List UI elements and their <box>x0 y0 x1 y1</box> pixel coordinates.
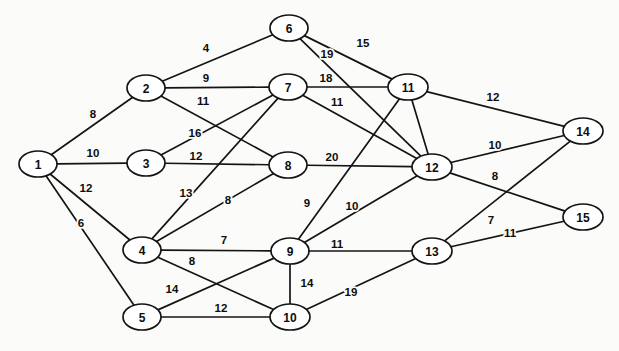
edge-weight-halo-2-8: 11 <box>197 95 210 107</box>
edge-weight-label-4-7: 13 <box>180 187 193 199</box>
graph-node-6[interactable]: 6 <box>270 15 308 41</box>
edge-weight-label-9-10: 14 <box>301 277 314 289</box>
edge-weight-halo-11-14: 12 <box>487 91 500 103</box>
graph-node-15[interactable]: 15 <box>563 204 603 230</box>
edge-weight-halo-9-11: 9 <box>304 197 310 209</box>
edge-weight-halo-1-3: 10 <box>87 147 100 159</box>
node-shape-4[interactable] <box>123 237 161 263</box>
graph-edge-1-5 <box>46 176 134 305</box>
edge-weight-label-1-2: 8 <box>90 108 97 120</box>
graph-node-1[interactable]: 1 <box>19 151 57 177</box>
edge-weight-halo-13-14: 7 <box>488 214 494 226</box>
edge-weight-halo-6-11: 15 <box>357 37 370 49</box>
graph-edge-9-12 <box>304 176 417 243</box>
edge-weight-label-7-11: 18 <box>320 72 333 84</box>
graph-edge-6-11 <box>304 36 392 79</box>
edge-weight-halo-1-2: 8 <box>90 108 97 120</box>
edge-weight-label-3-8: 12 <box>190 150 203 162</box>
edge-weight-label-9-13: 11 <box>331 238 344 250</box>
edge-weight-label-5-10: 12 <box>215 302 228 314</box>
edge-weight-label-2-8: 11 <box>197 95 210 107</box>
graph-edge-2-6 <box>162 35 273 81</box>
graph-edge-8-12 <box>307 165 412 166</box>
edge-weight-halo-12-15: 8 <box>492 170 499 182</box>
graph-edge-4-9 <box>161 250 271 251</box>
node-shape-14[interactable] <box>563 118 603 144</box>
graph-node-13[interactable]: 13 <box>412 238 452 264</box>
node-shape-2[interactable] <box>127 75 165 101</box>
edge-weight-label-7-12: 11 <box>331 96 344 108</box>
graph-node-3[interactable]: 3 <box>127 150 165 176</box>
node-shape-3[interactable] <box>127 150 165 176</box>
edge-weight-halo-4-7: 13 <box>180 187 193 199</box>
graph-svg-root: 123456789101112131415 881010121266449911… <box>0 0 619 351</box>
graph-edge-4-8 <box>156 173 273 241</box>
edge-weight-halo-1-4: 12 <box>80 182 93 194</box>
edge-weight-label-4-10: 8 <box>189 255 196 267</box>
node-shape-12[interactable] <box>412 154 452 180</box>
graph-node-12[interactable]: 12 <box>412 154 452 180</box>
node-shape-5[interactable] <box>123 304 161 330</box>
edge-weight-label-9-12: 10 <box>346 200 359 212</box>
edge-weight-halo-4-10: 8 <box>189 255 196 267</box>
graph-node-14[interactable]: 14 <box>563 118 603 144</box>
graph-edge-10-13 <box>306 259 415 310</box>
graph-edge-2-8 <box>161 96 273 157</box>
node-shape-6[interactable] <box>270 15 308 41</box>
graph-edge-1-3 <box>57 163 127 164</box>
edge-weight-halo-12-14: 10 <box>489 139 502 151</box>
graph-edge-11-12 <box>412 100 428 154</box>
node-shape-13[interactable] <box>412 238 452 264</box>
node-shape-10[interactable] <box>270 304 310 330</box>
edge-weight-halo-3-8: 12 <box>190 150 203 162</box>
graph-node-10[interactable]: 10 <box>270 304 310 330</box>
edge-weight-label-1-3: 10 <box>87 147 100 159</box>
edges-layer <box>46 35 570 317</box>
edge-weight-halo-4-9: 7 <box>221 234 227 246</box>
edge-weight-label-12-15: 8 <box>492 170 499 182</box>
edge-weight-halo-2-6: 4 <box>203 42 210 54</box>
graph-edge-1-4 <box>50 174 130 240</box>
graph-edge-3-8 <box>165 163 269 164</box>
graph-edge-13-15 <box>451 221 564 246</box>
edge-weight-label-2-6: 4 <box>203 42 210 54</box>
edge-weight-label-9-11: 9 <box>304 197 310 209</box>
edge-weight-label-6-11: 15 <box>357 37 370 49</box>
graph-edge-3-7 <box>161 95 273 155</box>
graph-node-11[interactable]: 11 <box>388 74 428 100</box>
graph-diagram-canvas: 123456789101112131415 881010121266449911… <box>0 0 619 351</box>
node-shape-7[interactable] <box>269 74 307 100</box>
graph-node-9[interactable]: 9 <box>271 238 309 264</box>
nodes-layer: 123456789101112131415 <box>19 15 603 330</box>
graph-node-2[interactable]: 2 <box>127 75 165 101</box>
edge-weight-halo-8-12: 20 <box>326 151 339 163</box>
graph-edge-13-14 <box>445 141 571 241</box>
node-shape-9[interactable] <box>271 238 309 264</box>
graph-edge-1-2 <box>51 97 133 154</box>
edge-weight-label-12-14: 10 <box>489 139 502 151</box>
edge-weight-halo-7-12: 11 <box>331 96 344 108</box>
edge-weight-halo-9-12: 10 <box>346 200 359 212</box>
edge-weight-label-11-14: 12 <box>487 91 500 103</box>
edge-weight-halo-9-10: 14 <box>301 277 314 289</box>
edge-weight-halo-2-7: 9 <box>203 72 209 84</box>
node-shape-11[interactable] <box>388 74 428 100</box>
edge-weight-label-2-7: 9 <box>203 72 209 84</box>
edge-weight-label-13-14: 7 <box>488 214 494 226</box>
graph-edge-11-14 <box>427 92 565 127</box>
graph-node-4[interactable]: 4 <box>123 237 161 263</box>
edge-weight-halo-7-11: 18 <box>320 72 333 84</box>
node-shape-15[interactable] <box>563 204 603 230</box>
node-shape-8[interactable] <box>269 152 307 178</box>
graph-node-7[interactable]: 7 <box>269 74 307 100</box>
node-shape-1[interactable] <box>19 151 57 177</box>
edge-weight-halo-5-9: 14 <box>166 283 179 295</box>
graph-node-8[interactable]: 8 <box>269 152 307 178</box>
graph-node-5[interactable]: 5 <box>123 304 161 330</box>
graph-edge-4-7 <box>152 98 278 239</box>
graph-edge-7-12 <box>303 95 417 158</box>
graph-edge-2-7 <box>165 87 269 88</box>
edge-weight-label-8-12: 20 <box>326 151 339 163</box>
edge-weight-label-5-9: 14 <box>166 283 179 295</box>
edge-weight-label-4-9: 7 <box>221 234 227 246</box>
